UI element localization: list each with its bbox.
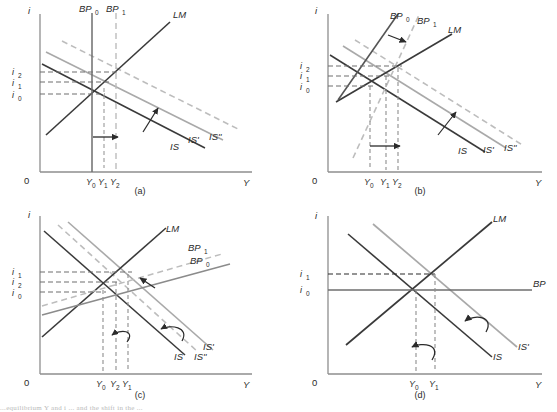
panel-d-label-is-prime: IS' xyxy=(518,341,530,352)
panel-b-caption: (b) xyxy=(400,186,440,196)
panel-b-y-tick-0: i xyxy=(300,61,303,71)
panel-a-label-is: IS xyxy=(170,141,180,152)
panel-c-y-tick-1-sub: 2 xyxy=(18,282,22,289)
panel-b-label-bp0-sub: 0 xyxy=(406,16,410,23)
panel-a-label-is-doubleprime: IS'' xyxy=(209,131,223,142)
panel-b-label-lm: LM xyxy=(448,24,461,35)
panel-b-curve-bp0 xyxy=(338,14,398,100)
panel-c-curve-bp0 xyxy=(42,264,230,315)
panel-a-caption: (a) xyxy=(120,186,160,196)
panel-d-curve-is-prime xyxy=(373,224,517,347)
panel-d-y-axis-label: i xyxy=(315,210,318,221)
panel-a: i Y 0 i 2 i 1 i 0 Y 0 Y 1 Y 2 xyxy=(0,0,280,196)
panel-b-x-axis-label: Y xyxy=(535,177,542,188)
figure-page: i Y 0 i 2 i 1 i 0 Y 0 Y 1 Y 2 xyxy=(0,0,557,412)
panel-a-axes xyxy=(40,14,252,172)
panel-b-x-ticks: Y 0 Y 1 Y 2 xyxy=(364,177,402,189)
panel-b-x-tick-0-sub: 0 xyxy=(370,182,374,189)
panel-d-y-ticks: i 1 i 0 xyxy=(300,269,310,297)
panel-c-label-bp0-sub: 0 xyxy=(206,261,210,268)
panel-b-y-ticks: i 2 i 1 i 0 xyxy=(300,61,310,94)
panel-d-caption: (d) xyxy=(400,390,440,400)
panel-b-y-tick-2: i xyxy=(300,82,303,92)
panel-a-label-is-prime: IS' xyxy=(188,134,200,145)
panel-a-x-ticks: Y 0 Y 1 Y 2 xyxy=(86,177,120,189)
panel-d-curve-is xyxy=(348,234,492,357)
panel-a-y-tick-0: i xyxy=(12,67,15,77)
panel-c-label-bp0: BP xyxy=(190,255,203,266)
panel-c-y-tick-2: i xyxy=(12,288,15,298)
panel-b-y-tick-1-sub: 1 xyxy=(306,76,310,83)
panel-d-label-is: IS xyxy=(493,351,503,362)
panel-c-label-lm: LM xyxy=(166,223,179,234)
panel-b-curve-is xyxy=(330,55,485,152)
panel-c-y-tick-2-sub: 0 xyxy=(18,293,22,300)
panel-b-arrow-bp-shift xyxy=(388,35,406,42)
panel-c-label-is: IS xyxy=(174,351,184,362)
panel-b-label-is-prime: IS' xyxy=(483,144,495,155)
panel-a-y-tick-0-sub: 2 xyxy=(18,72,22,79)
panel-c-label-is-doubleprime: IS'' xyxy=(194,351,208,362)
panel-d-arrow-y-shift-back xyxy=(412,345,435,360)
panel-b-label-bp0: BP xyxy=(390,10,403,21)
panel-a-curve-is-doubleprime xyxy=(62,41,240,130)
panel-c-label-bp1-sub: 1 xyxy=(204,248,208,255)
panel-a-x-tick-0-sub: 0 xyxy=(92,182,96,189)
panel-d-y-tick-0: i xyxy=(300,269,303,279)
panel-a-label-lm: LM xyxy=(173,9,186,20)
panel-a-x-axis-label: Y xyxy=(243,177,250,188)
panel-b-y-axis-label: i xyxy=(315,5,318,16)
panel-b-curve-lm xyxy=(336,34,452,102)
panel-d-x-axis-label: Y xyxy=(535,379,542,390)
panel-a-label-bp1: BP xyxy=(106,3,119,14)
panel-b-y-tick-1: i xyxy=(300,71,303,81)
panel-c-origin-label: 0 xyxy=(24,377,29,388)
panel-b-label-bp1: BP xyxy=(417,15,430,26)
panel-c-label-bp1: BP xyxy=(188,242,201,253)
panel-b-y-tick-0-sub: 2 xyxy=(306,66,310,73)
panel-b-label-is-doubleprime: IS'' xyxy=(504,142,518,153)
panel-d-curve-lm xyxy=(346,222,492,345)
panel-d-label-lm: LM xyxy=(493,213,506,224)
panel-c-y-tick-0-sub: 1 xyxy=(18,272,22,279)
panel-c-curve-is xyxy=(44,231,185,355)
panel-a-y-tick-2-sub: 0 xyxy=(18,95,22,102)
panel-c-x-tick-0-sub: 0 xyxy=(102,384,106,391)
panel-c-y-axis-label: i xyxy=(28,209,31,220)
panel-d-label-bp: BP xyxy=(533,278,546,289)
panel-b-x-tick-1-sub: 1 xyxy=(386,182,390,189)
panel-a-curve-is-prime xyxy=(46,52,223,140)
panel-b-label-bp1-sub: 1 xyxy=(433,21,437,28)
panel-c-y-ticks: i 1 i 2 i 0 xyxy=(12,267,22,300)
panel-c-axes xyxy=(40,216,252,374)
panel-d-y-tick-1-sub: 0 xyxy=(306,290,310,297)
panel-d: i Y 0 i 1 i 0 Y 0 Y 1 LM BP IS IS' xyxy=(280,202,557,400)
panel-a-y-axis-label: i xyxy=(28,5,31,16)
panel-a-arrow-is-shift xyxy=(143,108,158,132)
panel-a-y-tick-2: i xyxy=(12,90,15,100)
panel-a-label-bp1-sub: 1 xyxy=(122,9,126,16)
panel-a-y-ticks: i 2 i 1 i 0 xyxy=(12,67,22,102)
panel-d-y-tick-1: i xyxy=(300,285,303,295)
panel-a-label-bp0-sub: 0 xyxy=(95,9,99,16)
panel-a-curve-is xyxy=(42,64,205,148)
panel-b-curve-is-doubleprime xyxy=(355,40,524,146)
panel-c: i Y 0 i 1 i 2 i 0 Y 0 Y 2 Y 1 LM BP 1 xyxy=(0,202,280,400)
panel-c-caption: (c) xyxy=(120,390,160,400)
panel-c-y-tick-0: i xyxy=(12,267,15,277)
panel-c-x-axis-label: Y xyxy=(243,379,250,390)
panel-a-y-tick-1-sub: 1 xyxy=(18,83,22,90)
panel-a-y-tick-1: i xyxy=(12,78,15,88)
panel-d-arrow-is-shift-back xyxy=(465,317,488,332)
panel-c-arrow-y-shift-back xyxy=(112,331,130,342)
panel-a-x-tick-1-sub: 1 xyxy=(104,182,108,189)
panel-d-origin-label: 0 xyxy=(312,377,317,388)
page-bottom-text: ...equilibrium Y and i ... and the shift… xyxy=(0,404,557,412)
panel-a-label-bp0: BP xyxy=(79,3,92,14)
panel-b-y-tick-2-sub: 0 xyxy=(306,87,310,94)
panel-d-y-tick-0-sub: 1 xyxy=(306,274,310,281)
panel-b-label-is: IS xyxy=(458,145,468,156)
panel-b: i Y 0 i 2 i 1 i 0 Y 0 Y 1 Y 2 LM BP 0 xyxy=(280,0,557,196)
panel-c-y-tick-1: i xyxy=(12,277,15,287)
panel-b-origin-label: 0 xyxy=(312,175,317,186)
